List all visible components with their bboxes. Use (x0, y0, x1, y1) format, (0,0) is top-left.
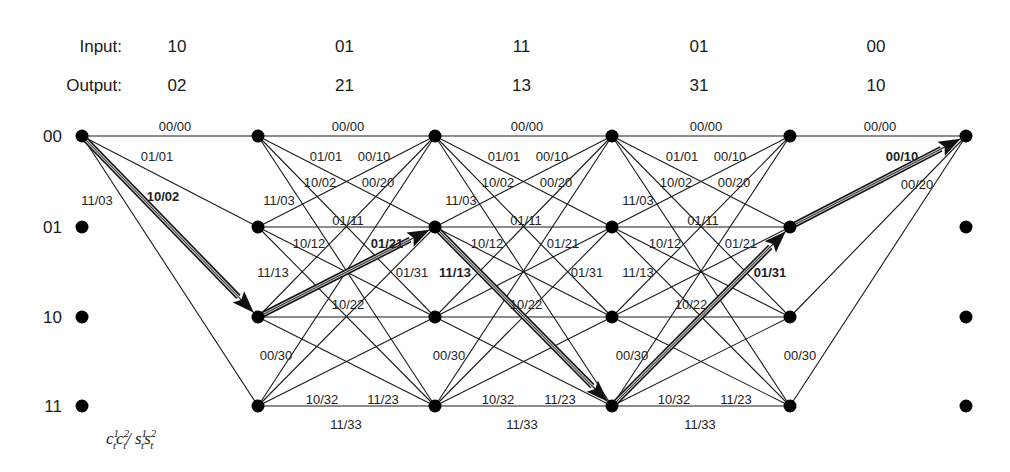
edge-labels: 00/0001/0110/0211/0300/0001/0100/1010/02… (81, 119, 933, 432)
edge-label: 00/00 (159, 119, 192, 134)
edge-label: 00/20 (901, 177, 934, 192)
trellis-edge (790, 136, 966, 406)
trellis-node (960, 221, 973, 234)
trellis-node (252, 221, 265, 234)
trellis-node (429, 400, 442, 413)
edge-label: 00/20 (362, 175, 395, 190)
edge-label: 00/00 (511, 119, 544, 134)
edge-label: 00/10 (358, 149, 391, 164)
edge-label: 11/23 (544, 392, 576, 407)
trellis-node (252, 400, 265, 413)
edge-label: 11/03 (81, 193, 113, 208)
edge-label: 10/22 (510, 297, 543, 312)
output-value: 10 (867, 76, 886, 95)
edge-label: 01/01 (141, 149, 174, 164)
edge-label: 11/03 (622, 193, 654, 208)
edge-label: 11/13 (439, 265, 471, 280)
edge-label: 01/11 (510, 213, 542, 228)
output-value: 13 (512, 76, 531, 95)
edge-label: 00/10 (886, 149, 919, 164)
edge-label: 11/03 (445, 193, 477, 208)
edge-label: 01/31 (754, 265, 787, 280)
trellis-node (960, 311, 973, 324)
input-value: 01 (335, 37, 354, 56)
legend-notation: c1tc2t/s1ts2t (106, 427, 157, 451)
edge-label: 11/13 (257, 265, 289, 280)
edge-label: 11/23 (720, 392, 752, 407)
edge-label: 01/01 (666, 149, 699, 164)
input-value: 01 (690, 37, 709, 56)
trellis-node (606, 221, 619, 234)
trellis-edge (790, 136, 966, 317)
trellis-node (606, 400, 619, 413)
edge-label: 10/22 (332, 297, 365, 312)
trellis-node (960, 400, 973, 413)
input-value: 10 (168, 37, 187, 56)
trellis-node (252, 311, 265, 324)
trellis-node (784, 311, 797, 324)
edge-label: 00/00 (332, 119, 365, 134)
state-labels: 00011011 (43, 127, 62, 416)
trellis-node (76, 130, 89, 143)
edge-label: 00/30 (433, 348, 466, 363)
edge-label: 00/30 (616, 348, 649, 363)
trellis-node (429, 311, 442, 324)
edge-label: 11/23 (367, 392, 399, 407)
trellis-edge (82, 136, 258, 406)
edge-label: 11/33 (506, 417, 538, 432)
state-label-10: 10 (43, 308, 62, 327)
trellis-node (76, 221, 89, 234)
trellis-node (252, 130, 265, 143)
input-value: 00 (867, 37, 886, 56)
edge-label: 11/03 (263, 193, 295, 208)
edge-label: 10/12 (293, 236, 326, 251)
survivor-arrow (612, 231, 786, 406)
edge-label: 10/22 (675, 297, 708, 312)
header: Input: Output: 10020121111301310010 (66, 37, 885, 95)
edge-label: 01/21 (547, 236, 580, 251)
edge-label: 00/10 (714, 149, 747, 164)
trellis-node (76, 400, 89, 413)
trellis-node (429, 130, 442, 143)
output-row-label: Output: (66, 76, 122, 95)
trellis-node (960, 130, 973, 143)
state-label-01: 01 (43, 218, 62, 237)
edge-label: 10/02 (304, 175, 337, 190)
edge-label: 10/12 (471, 236, 504, 251)
edge-label: 01/01 (488, 149, 521, 164)
edge-label: 01/11 (332, 213, 364, 228)
edge-label: 10/02 (660, 175, 693, 190)
edge-label: 00/10 (536, 149, 569, 164)
edge-label: 10/02 (147, 189, 180, 204)
edge-label: 11/33 (330, 417, 362, 432)
edge-label: 00/20 (718, 175, 751, 190)
header-values: 10020121111301310010 (168, 37, 886, 95)
trellis-node (784, 221, 797, 234)
edge-label: 01/31 (571, 265, 604, 280)
edge-label: 01/21 (725, 236, 758, 251)
state-label-11: 11 (44, 397, 62, 416)
trellis-node (606, 130, 619, 143)
trellis-diagram: Input: Output: 10020121111301310010 0001… (0, 0, 1010, 472)
edge-label: 00/00 (690, 119, 723, 134)
trellis-node (429, 221, 442, 234)
edge-label: 10/32 (482, 392, 515, 407)
edge-label: 00/20 (540, 175, 573, 190)
edge-label: 00/30 (784, 348, 817, 363)
edge-label: 00/00 (864, 119, 897, 134)
edge-label: 10/32 (306, 392, 339, 407)
edge-label: 01/21 (371, 236, 404, 251)
edge-label: 01/11 (687, 213, 719, 228)
trellis-node (784, 400, 797, 413)
survivor-arrow (435, 227, 608, 402)
edge-label: 11/33 (684, 417, 716, 432)
edge-label: 10/32 (658, 392, 691, 407)
edge-label: 10/02 (482, 175, 515, 190)
input-value: 11 (513, 37, 531, 56)
edge-label: 00/30 (260, 348, 293, 363)
output-value: 31 (690, 76, 709, 95)
output-value: 02 (168, 76, 187, 95)
state-label-00: 00 (43, 127, 62, 146)
input-row-label: Input: (79, 37, 122, 56)
output-value: 21 (335, 76, 354, 95)
